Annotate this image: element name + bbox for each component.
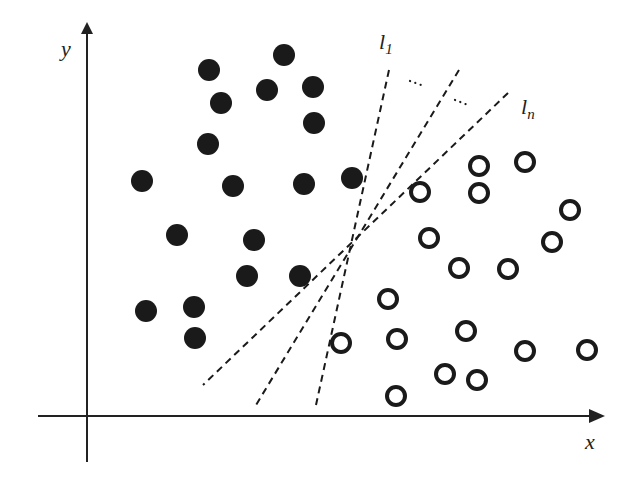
filled-point [256,79,278,101]
ellipsis-dots-icon [410,81,424,86]
filled-point [302,76,324,98]
filled-point [273,44,295,66]
open-point [387,387,405,405]
open-point [578,341,596,359]
filled-point [303,112,325,134]
open-point [332,334,350,352]
line-label-ln: ln [521,94,535,122]
filled-point [197,133,219,155]
filled-point [135,300,157,322]
filled-point [289,265,311,287]
diagram-svg: x y l1ln [0,0,636,486]
filled-point [293,173,315,195]
open-point [388,330,406,348]
class-filled-points [131,44,363,349]
open-point [543,233,561,251]
open-point [499,260,517,278]
y-axis-arrow-icon [81,22,93,34]
open-point [470,157,488,175]
filled-point [341,167,363,189]
filled-point [222,175,244,197]
filled-point [243,229,265,251]
filled-point [184,327,206,349]
separating-lines-diagram: x y l1ln [0,0,636,486]
separating-line-l1 [316,70,389,405]
line-label-l1: l1 [379,29,393,57]
x-axis-arrow-icon [589,409,605,423]
open-point [411,183,429,201]
filled-point [166,224,188,246]
filled-point [198,59,220,81]
y-axis-label: y [59,36,71,61]
open-point [436,365,454,383]
open-point [516,342,534,360]
x-axis-label: x [584,429,595,454]
filled-point [210,92,232,114]
filled-point [131,170,153,192]
open-point [379,290,397,308]
filled-point [236,265,258,287]
filled-point [183,296,205,318]
open-point [450,259,468,277]
open-point [561,201,579,219]
open-point [457,322,475,340]
open-point [420,229,438,247]
ellipsis-dots-icon [455,100,468,105]
class-open-points [332,153,596,405]
open-point [468,371,486,389]
open-point [470,184,488,202]
separating-lines: l1ln [203,29,535,405]
open-point [516,153,534,171]
